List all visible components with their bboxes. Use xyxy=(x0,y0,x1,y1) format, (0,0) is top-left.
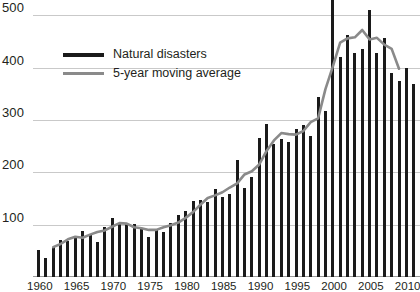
moving-average-layer xyxy=(33,0,420,277)
x-tick-label-2010: 2010 xyxy=(395,280,420,292)
x-tick-label-1985: 1985 xyxy=(211,280,237,292)
y-tick-label-500: 500 xyxy=(2,0,24,15)
x-tick-label-1980: 1980 xyxy=(174,280,200,292)
y-tick-label-200: 200 xyxy=(2,157,24,172)
legend-swatch-bars xyxy=(63,53,104,57)
x-tick-label-1960: 1960 xyxy=(27,280,53,292)
legend-item-natural-disasters: Natural disasters xyxy=(63,47,241,62)
legend-item-moving-average: 5-year moving average xyxy=(63,66,241,81)
y-tick-label-400: 400 xyxy=(2,53,24,68)
plot-area xyxy=(33,0,420,277)
x-tick-label-1965: 1965 xyxy=(64,280,90,292)
chart-legend: Natural disasters 5-year moving average xyxy=(63,47,241,81)
x-tick-label-2005: 2005 xyxy=(358,280,384,292)
legend-label-moving-average: 5-year moving average xyxy=(113,67,241,80)
x-tick-label-1990: 1990 xyxy=(248,280,274,292)
x-tick-label-1970: 1970 xyxy=(101,280,127,292)
x-tick-label-2000: 2000 xyxy=(321,280,347,292)
y-tick-label-300: 300 xyxy=(2,105,24,120)
x-tick-label-1975: 1975 xyxy=(137,280,163,292)
legend-label-natural-disasters: Natural disasters xyxy=(113,48,207,61)
x-tick-label-1995: 1995 xyxy=(285,280,311,292)
legend-swatch-line xyxy=(63,72,104,75)
y-tick-label-100: 100 xyxy=(2,210,24,225)
